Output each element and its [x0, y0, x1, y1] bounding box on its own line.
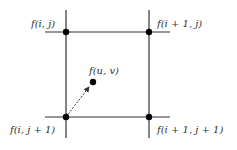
- label-bottom-left: f(i, j + 1): [9, 124, 55, 135]
- node-top-left: [63, 29, 69, 35]
- label-center: f(u, v): [88, 65, 119, 76]
- node-center: [90, 79, 96, 85]
- label-top-right: f(i + 1, j): [156, 18, 202, 29]
- interpolation-arrow: [66, 87, 89, 117]
- node-top-right: [146, 29, 152, 35]
- node-bottom-right: [146, 114, 152, 120]
- interpolation-diagram: f(i, j) f(i + 1, j) f(i, j + 1) f(i + 1,…: [0, 0, 237, 150]
- node-bottom-left: [63, 114, 69, 120]
- label-top-left: f(i, j): [30, 18, 55, 29]
- label-bottom-right: f(i + 1, j + 1): [156, 124, 223, 135]
